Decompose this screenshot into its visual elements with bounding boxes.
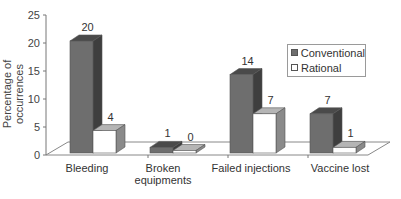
legend-item-conventional: Conventional bbox=[288, 45, 365, 60]
data-label: 4 bbox=[107, 111, 113, 123]
y-axis-title: Percentage of occurrences bbox=[1, 29, 25, 159]
data-label: 0 bbox=[187, 131, 193, 143]
data-label: 20 bbox=[81, 21, 93, 33]
legend-item-rational: Rational bbox=[288, 60, 365, 75]
data-label: 1 bbox=[347, 127, 353, 139]
svg-text:0: 0 bbox=[34, 149, 40, 161]
legend: Conventional Rational bbox=[287, 44, 366, 77]
data-label: 14 bbox=[241, 55, 253, 67]
conventional-swatch-icon bbox=[291, 49, 298, 56]
x-tick-label: equipments bbox=[135, 174, 192, 186]
x-tick-label: Broken bbox=[146, 162, 181, 174]
svg-text:25: 25 bbox=[28, 9, 40, 21]
bar-conventional-3: 7 bbox=[310, 94, 342, 153]
rational-swatch-icon bbox=[291, 64, 298, 71]
bar-chart: 0510152025 2041014771 BleedingBrokenequi… bbox=[0, 0, 401, 199]
svg-text:20: 20 bbox=[28, 37, 40, 49]
legend-label: Conventional bbox=[301, 47, 365, 59]
x-axis-labels: BleedingBrokenequipmentsFailed injection… bbox=[66, 162, 370, 186]
data-label: 7 bbox=[267, 94, 273, 106]
x-tick-label: Failed injections bbox=[212, 162, 291, 174]
svg-text:15: 15 bbox=[28, 65, 40, 77]
x-tick-label: Bleeding bbox=[66, 162, 109, 174]
data-label: 7 bbox=[324, 94, 330, 106]
x-tick-label: Vaccine lost bbox=[311, 162, 370, 174]
svg-text:10: 10 bbox=[28, 93, 40, 105]
data-label: 1 bbox=[164, 127, 170, 139]
legend-label: Rational bbox=[301, 62, 341, 74]
bars: 2041014771 bbox=[70, 21, 365, 153]
svg-text:5: 5 bbox=[34, 121, 40, 133]
